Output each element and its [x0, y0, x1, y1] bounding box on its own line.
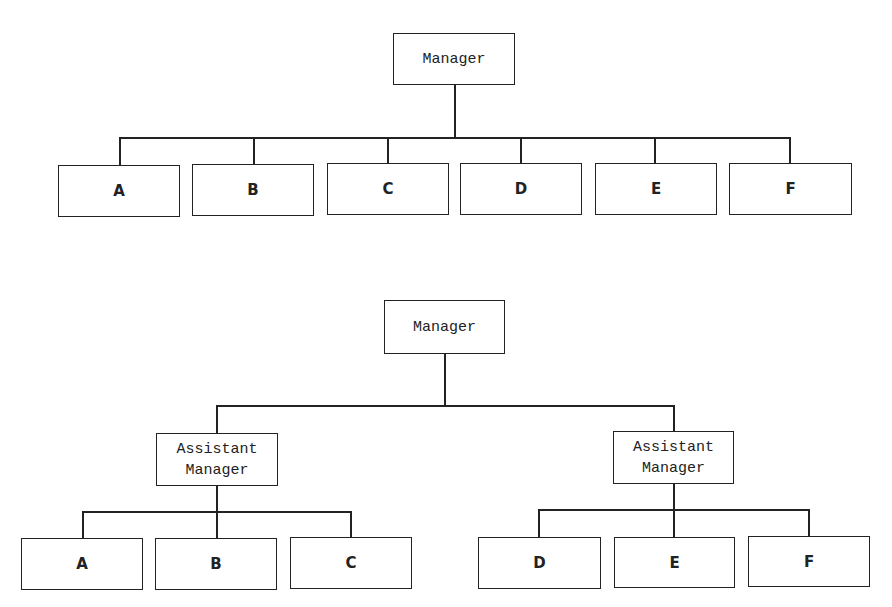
- subordinate-box-b: B: [155, 538, 277, 590]
- box-label: E: [669, 554, 679, 572]
- subordinate-box-a: A: [58, 165, 180, 217]
- connector-to-e: [654, 137, 656, 163]
- connector-to-d: [538, 509, 540, 537]
- subordinate-box-b: B: [192, 164, 314, 216]
- connector-right-assistant-down: [673, 484, 675, 537]
- subordinate-box-d: D: [478, 537, 601, 589]
- connector-manager-down: [444, 354, 446, 405]
- box-label: D: [515, 180, 527, 198]
- manager-label: Manager: [422, 49, 485, 70]
- manager-label: Manager: [413, 317, 476, 338]
- box-label: D: [533, 554, 545, 572]
- subordinate-box-f: F: [729, 163, 852, 215]
- box-label: F: [804, 553, 814, 571]
- connector-to-right-assistant: [673, 405, 675, 431]
- subordinate-box-d: D: [460, 163, 582, 215]
- box-label: B: [247, 181, 258, 199]
- manager-box: Manager: [393, 33, 515, 85]
- box-label: A: [76, 555, 88, 573]
- subordinate-box-f: F: [748, 536, 870, 587]
- connector-to-d: [520, 137, 522, 163]
- box-label: A: [113, 182, 125, 200]
- connector-to-left-assistant: [216, 405, 218, 433]
- connector-horizontal-bus: [119, 137, 791, 139]
- connector-to-c: [387, 137, 389, 163]
- connector-to-f: [808, 509, 810, 536]
- connector-to-f: [789, 137, 791, 163]
- connector-to-a: [119, 137, 121, 165]
- box-label: C: [382, 180, 393, 198]
- connector-assistant-bus: [216, 405, 674, 407]
- assistant-manager-label: Assistant Manager: [633, 437, 714, 479]
- connector-left-bus: [82, 511, 351, 513]
- subordinate-box-e: E: [595, 163, 717, 215]
- subordinate-box-c: C: [290, 537, 412, 589]
- assistant-manager-label: Assistant Manager: [176, 439, 257, 481]
- manager-box: Manager: [384, 300, 505, 354]
- box-label: F: [785, 180, 795, 198]
- connector-to-b: [253, 137, 255, 164]
- box-label: B: [210, 555, 221, 573]
- connector-right-bus: [538, 509, 809, 511]
- assistant-manager-box-left: Assistant Manager: [156, 433, 278, 486]
- subordinate-box-c: C: [327, 163, 449, 215]
- connector-to-a: [82, 511, 84, 538]
- subordinate-box-a: A: [21, 538, 143, 590]
- subordinate-box-e: E: [614, 537, 735, 588]
- box-label: E: [651, 180, 661, 198]
- connector-manager-down: [454, 85, 456, 137]
- box-label: C: [345, 554, 356, 572]
- connector-to-c: [350, 511, 352, 537]
- assistant-manager-box-right: Assistant Manager: [613, 431, 734, 484]
